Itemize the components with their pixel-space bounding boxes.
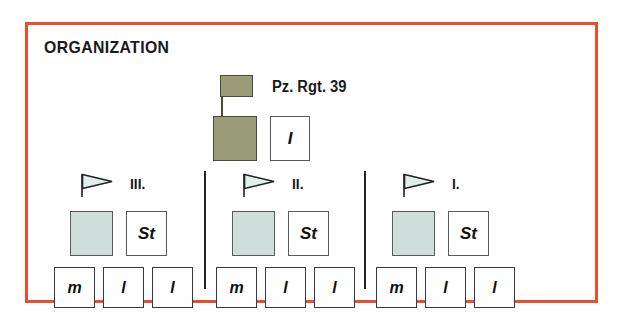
company-glyph: l bbox=[170, 280, 174, 296]
company-glyph: m bbox=[67, 280, 81, 296]
battalion-label: III. bbox=[130, 175, 145, 192]
battalion-pennant-flag-icon bbox=[80, 173, 114, 197]
company-row: m l l bbox=[216, 267, 355, 308]
organization-panel-frame: ORGANIZATION Pz. Rgt. 39 I III. bbox=[25, 22, 598, 303]
battalion-label: II. bbox=[292, 175, 304, 192]
company-glyph: l bbox=[443, 280, 447, 296]
battalion-unit-symbol bbox=[392, 211, 435, 256]
regiment-flag-icon bbox=[220, 75, 253, 97]
company-box[interactable]: l bbox=[314, 267, 355, 308]
company-box[interactable]: l bbox=[474, 267, 515, 308]
battalion-column[interactable]: III. St m l l bbox=[56, 173, 206, 293]
regiment-flag-staff-icon bbox=[221, 96, 223, 118]
company-glyph: l bbox=[492, 280, 496, 296]
battalion-column[interactable]: I. St m l l bbox=[378, 173, 528, 293]
company-box[interactable]: m bbox=[54, 267, 95, 308]
battalion-pennant-flag-icon bbox=[242, 173, 276, 197]
company-glyph: m bbox=[229, 280, 243, 296]
organization-chart: Pz. Rgt. 39 I III. St m bbox=[28, 25, 595, 300]
battalion-staff-box[interactable]: St bbox=[448, 211, 489, 256]
company-glyph: l bbox=[332, 280, 336, 296]
company-box[interactable]: l bbox=[152, 267, 193, 308]
company-row: m l l bbox=[376, 267, 515, 308]
battalion-staff-glyph: St bbox=[300, 225, 317, 242]
battalion-label: I. bbox=[452, 175, 460, 192]
regiment-label: Pz. Rgt. 39 bbox=[272, 78, 346, 96]
regiment-node[interactable]: Pz. Rgt. 39 I bbox=[220, 75, 420, 167]
regiment-attached-unit-glyph: I bbox=[288, 130, 293, 147]
battalion-unit-symbol bbox=[70, 211, 113, 256]
regiment-attached-unit-box[interactable]: I bbox=[270, 116, 310, 161]
company-glyph: m bbox=[389, 280, 403, 296]
battalion-staff-glyph: St bbox=[138, 225, 155, 242]
battalion-column[interactable]: II. St m l l bbox=[218, 173, 368, 293]
regiment-unit-symbol bbox=[213, 116, 257, 161]
company-box[interactable]: l bbox=[425, 267, 466, 308]
company-row: m l l bbox=[54, 267, 193, 308]
company-glyph: l bbox=[121, 280, 125, 296]
battalion-pennant-flag-icon bbox=[402, 173, 436, 197]
battalion-unit-symbol bbox=[232, 211, 275, 256]
company-box[interactable]: l bbox=[265, 267, 306, 308]
company-box[interactable]: m bbox=[376, 267, 417, 308]
battalion-staff-box[interactable]: St bbox=[126, 211, 167, 256]
battalion-staff-box[interactable]: St bbox=[288, 211, 329, 256]
battalion-staff-glyph: St bbox=[460, 225, 477, 242]
company-box[interactable]: l bbox=[103, 267, 144, 308]
company-glyph: l bbox=[283, 280, 287, 296]
company-box[interactable]: m bbox=[216, 267, 257, 308]
